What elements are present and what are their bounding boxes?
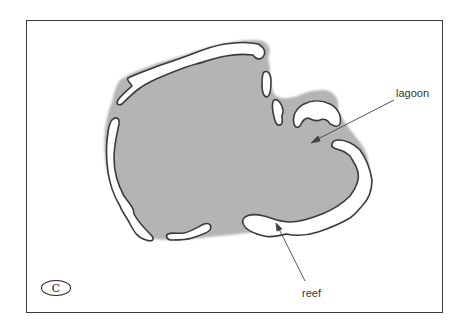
lagoon-label: lagoon [396, 88, 429, 99]
reef-islet-1 [262, 71, 271, 97]
panel-letter-badge: C [41, 280, 71, 296]
atoll-diagram [0, 0, 464, 327]
reef-label: reef [302, 288, 321, 299]
panel-letter: C [52, 283, 60, 294]
